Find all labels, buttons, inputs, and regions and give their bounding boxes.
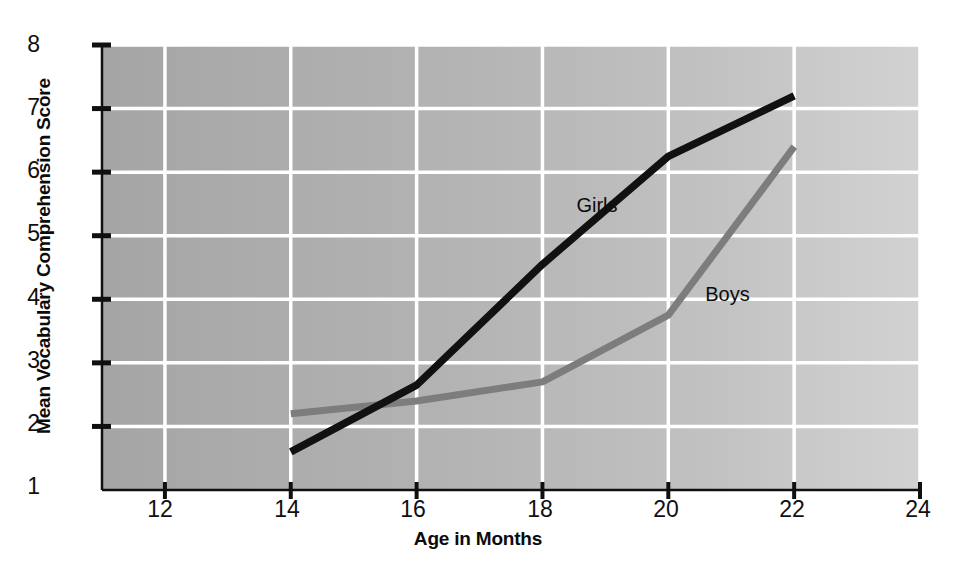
vocabulary-comprehension-line-chart: Mean Vocabulary Comprehension Score 8 7 … <box>0 0 956 580</box>
series-annotation-boys: Boys <box>705 283 749 306</box>
series-annotation-girls: Girls <box>576 194 617 217</box>
plot-area <box>0 0 956 580</box>
plot-background <box>102 45 920 490</box>
